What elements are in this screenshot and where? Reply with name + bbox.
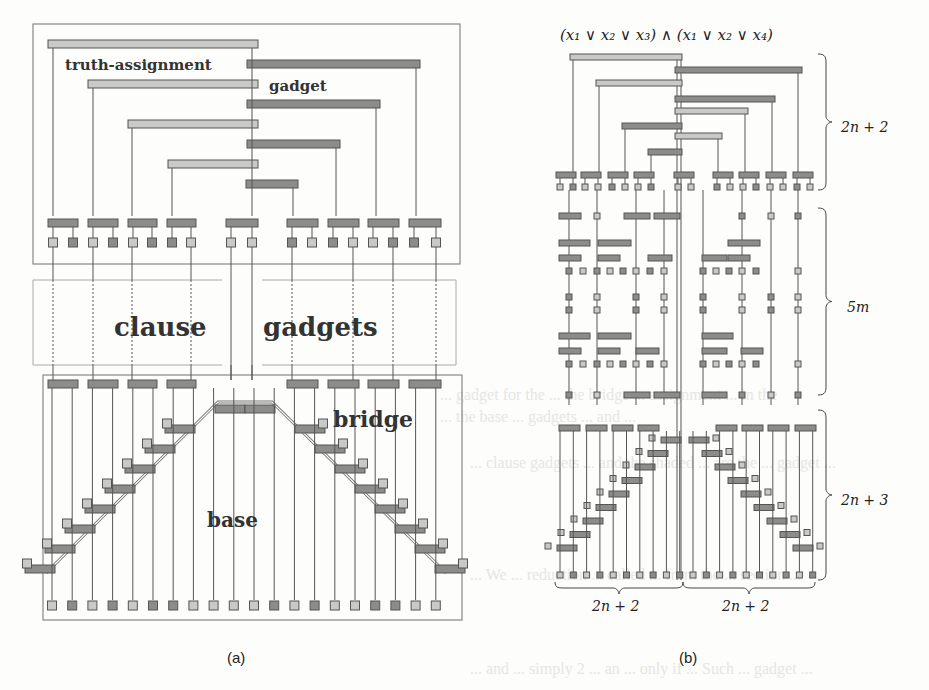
node-square [371, 601, 380, 610]
node-square [566, 294, 572, 300]
formula: (x₁ ∨ x₂ ∨ x₃) ∧ (x₁ ∨ x₂ ∨ x₄) [560, 26, 773, 44]
node-square [69, 238, 78, 247]
node-square [607, 361, 613, 367]
node-square [594, 294, 600, 300]
node-square [580, 361, 586, 367]
bar [715, 464, 735, 470]
node-square [713, 435, 719, 441]
node-square [410, 238, 419, 247]
node-square [558, 530, 564, 536]
node-square [330, 601, 339, 610]
bar [624, 213, 650, 219]
bar [702, 348, 727, 354]
node-square [308, 238, 317, 247]
node-square [83, 499, 92, 508]
bar [702, 255, 727, 261]
bar [741, 491, 761, 497]
bar [409, 219, 441, 227]
node-square [717, 572, 723, 578]
node-square [248, 238, 257, 247]
node-square [570, 572, 576, 578]
bar [128, 120, 258, 128]
node-square [419, 519, 428, 528]
label-clause: clause [114, 312, 207, 342]
node-square [804, 530, 810, 536]
node-square [690, 572, 696, 578]
node-square [594, 268, 600, 274]
node-square [270, 601, 279, 610]
node-square [88, 601, 97, 610]
bar [167, 380, 196, 388]
bar [48, 380, 78, 388]
bar [702, 333, 733, 339]
node-square [817, 543, 823, 549]
bar [287, 380, 318, 388]
bar [742, 425, 763, 431]
bar [247, 60, 420, 68]
node-square [740, 184, 746, 190]
node-square [726, 268, 732, 274]
node-square [768, 294, 774, 300]
bar [713, 172, 733, 178]
node-square [635, 184, 641, 190]
node-square [557, 184, 563, 190]
bar [612, 425, 633, 431]
node-square [439, 539, 448, 548]
node-square [89, 238, 98, 247]
node-square [739, 294, 745, 300]
bar [88, 380, 118, 388]
label-gadget: gadget [269, 77, 327, 95]
node-square [647, 268, 653, 274]
figure: truth-assignment gadget clause gadgets b… [0, 0, 929, 690]
bar [586, 425, 607, 431]
node-square [780, 184, 786, 190]
node-square [566, 361, 572, 367]
node-square [594, 213, 600, 219]
label-base: base [207, 508, 258, 532]
node-square [633, 268, 639, 274]
node-square [250, 601, 259, 610]
node-square [169, 601, 178, 610]
node-square [770, 572, 776, 578]
node-square [768, 392, 774, 398]
node-square [700, 307, 706, 313]
bar [793, 545, 813, 551]
brace-middle [818, 208, 832, 395]
node-square [108, 601, 117, 610]
node-square [63, 519, 72, 528]
bar [247, 140, 340, 148]
bar [598, 348, 620, 354]
bar [246, 180, 298, 188]
bar [598, 255, 620, 261]
bar [368, 380, 399, 388]
node-square [129, 238, 138, 247]
node-square [663, 572, 669, 578]
node-square [795, 213, 801, 219]
node-square [807, 184, 813, 190]
bar [559, 425, 580, 431]
node-square [349, 238, 358, 247]
bar [654, 213, 680, 219]
node-square [795, 392, 801, 398]
node-square [566, 392, 572, 398]
node-square [163, 419, 172, 428]
node-square [727, 184, 733, 190]
bar [741, 348, 763, 354]
node-square [726, 449, 732, 455]
node-square [739, 268, 745, 274]
bar [648, 451, 668, 457]
node-square [459, 559, 468, 568]
bar [128, 380, 157, 388]
bar [767, 518, 787, 524]
bar [570, 54, 682, 60]
node-square [700, 361, 706, 367]
caption-a: (a) [227, 649, 245, 666]
node-square [713, 361, 719, 367]
node-square [661, 361, 667, 367]
node-square [594, 392, 600, 398]
node-square [791, 516, 797, 522]
node-square [109, 238, 118, 247]
bar [559, 240, 590, 246]
bar [636, 348, 659, 354]
node-square [620, 268, 626, 274]
